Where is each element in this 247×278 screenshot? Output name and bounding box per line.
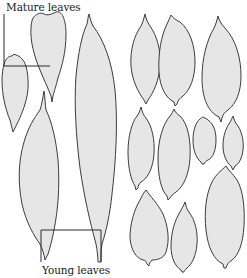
leaf-r1-c2 [159, 15, 195, 106]
leaf-r1-c1 [131, 14, 160, 104]
leaf-r2-c3 [193, 117, 216, 164]
left-leaf-group [2, 12, 116, 262]
leaf-r2-c4 [223, 116, 243, 170]
leaf-r2-c2 [158, 109, 190, 200]
leaf-r1-c3 [202, 16, 241, 122]
mature-leaves-label: Mature leaves [6, 2, 81, 13]
leaf-young-left [19, 91, 59, 260]
leaf-diagram [0, 0, 247, 278]
young-leaves-label: Young leaves [42, 265, 110, 276]
leaf-r3-c3 [205, 166, 244, 268]
right-leaf-grid [128, 14, 244, 272]
leaf-r3-c1 [130, 190, 168, 266]
leaf-r3-c2 [171, 202, 197, 272]
leaf-young-tall [75, 14, 116, 262]
leaf-mature-blunt [31, 12, 66, 102]
leaf-r2-c1 [128, 107, 154, 190]
